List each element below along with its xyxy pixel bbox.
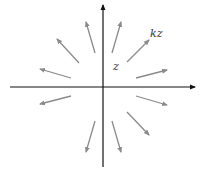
vector-left-lower-arrow (40, 96, 71, 104)
vector-right-lower-arrow (136, 96, 167, 105)
vector-down-left-arrow (86, 121, 95, 152)
vector-lower-right-diag-arrow (127, 112, 149, 135)
vector-up-right-arrow (112, 22, 121, 53)
vector-field-diagram: z kz (0, 0, 205, 172)
axes (10, 5, 195, 167)
vector-kz-arrow (127, 40, 149, 62)
diagram-svg: z kz (0, 0, 205, 172)
label-kz: kz (150, 27, 163, 40)
vector-left-upper-arrow (40, 69, 71, 78)
label-z: z (112, 60, 119, 73)
vector-upper-left-diag-arrow (57, 39, 79, 63)
vector-down-right-arrow (112, 121, 121, 152)
vector-up-left-arrow (86, 22, 95, 53)
vector-right-upper-arrow (136, 70, 167, 78)
